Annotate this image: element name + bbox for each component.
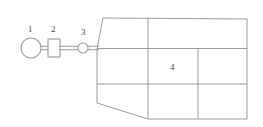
- node-1-label: 1: [28, 25, 33, 34]
- diagram-svg: [0, 0, 263, 127]
- node-shapes-group: [21, 38, 88, 58]
- node-3-label: 3: [81, 28, 86, 37]
- node-3-circle: [78, 43, 88, 53]
- node-1-circle: [21, 38, 41, 58]
- node-2-label: 2: [51, 25, 56, 34]
- diagram-canvas: 1 2 3 4: [0, 0, 263, 127]
- grid-cell-label: 4: [170, 63, 175, 72]
- node-2-rectangle: [48, 39, 60, 57]
